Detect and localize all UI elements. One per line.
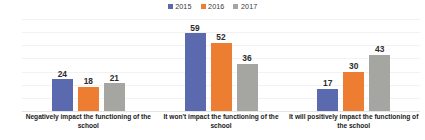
bar-wrap-0-0: 24 [52,19,73,111]
bar-value-label: 17 [323,79,332,87]
bar-value-label: 24 [58,70,67,78]
legend-swatch-2017 [233,4,238,9]
bar-wrap-0-1: 18 [78,19,99,111]
x-axis-labels: Negatively impact the functioning of the… [22,113,420,140]
bar-value-label: 30 [349,62,358,70]
bar-groups: 24 18 21 59 [22,19,420,111]
chart-legend: 2015 2016 2017 [0,1,425,13]
bar-2017[interactable] [369,55,390,112]
legend-label-2017: 2017 [241,3,257,10]
x-label-0: Negatively impact the functioning of the… [22,113,155,140]
legend-swatch-2015 [168,4,173,9]
bar-group-2: 17 30 43 [287,19,420,111]
bar-2017[interactable] [237,64,258,111]
legend-swatch-2016 [201,4,206,9]
bar-value-label: 21 [110,74,119,82]
bar-2016[interactable] [211,43,232,111]
bar-wrap-1-1: 52 [211,19,232,111]
x-label-2: It will positively impact the functionin… [287,113,420,140]
bar-wrap-0-2: 21 [104,19,125,111]
bar-value-label: 43 [375,45,384,53]
x-label-1: It won't impact the functioning of the s… [155,113,288,140]
legend-item-2015[interactable]: 2015 [168,3,192,10]
bar-wrap-2-2: 43 [369,19,390,111]
bar-2016[interactable] [343,72,364,111]
bar-group-0: 24 18 21 [22,19,155,111]
bar-wrap-2-1: 30 [343,19,364,111]
bar-wrap-1-0: 59 [185,19,206,111]
bar-value-label: 36 [242,54,251,62]
gridline [22,111,420,112]
legend-item-2017[interactable]: 2017 [233,3,257,10]
bar-group-1: 59 52 36 [155,19,288,111]
bar-value-label: 59 [190,24,199,32]
bar-wrap-1-2: 36 [237,19,258,111]
bar-2015[interactable] [185,33,206,111]
bar-chart: 2015 2016 2017 706050403020100 24 18 [0,0,425,140]
legend-label-2016: 2016 [208,3,224,10]
bar-value-label: 52 [216,33,225,41]
legend-label-2015: 2015 [175,3,191,10]
bar-value-label: 18 [84,77,93,85]
bar-2017[interactable] [104,83,125,111]
bar-2015[interactable] [52,79,73,111]
bar-wrap-2-0: 17 [317,19,338,111]
legend-item-2016[interactable]: 2016 [201,3,225,10]
bar-2016[interactable] [78,87,99,111]
plot-area: 706050403020100 24 18 21 [22,19,420,111]
bar-2015[interactable] [317,89,338,111]
